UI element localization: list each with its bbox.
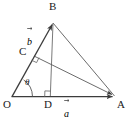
- vector-b-arrow-accent: [27, 26, 32, 31]
- point-label-c: C: [19, 46, 26, 57]
- vector-b-label: b: [27, 26, 32, 49]
- segment-c-a: [34, 56, 112, 95]
- angle-label-theta: θ: [25, 78, 29, 87]
- point-label-a: A: [117, 99, 125, 110]
- right-angle-at-d: [45, 91, 51, 97]
- vector-a-label: a: [64, 98, 69, 117]
- segment-b-a: [53, 23, 115, 96]
- point-label-d: D: [44, 99, 52, 110]
- vector-b-letter: b: [27, 36, 32, 47]
- vector-a-arrow-accent: [64, 98, 69, 103]
- vector-geometry-figure: O B A C D a b θ: [0, 0, 130, 117]
- vector-a-letter: a: [64, 108, 69, 117]
- point-label-b: B: [49, 1, 56, 12]
- point-label-o: O: [3, 99, 11, 110]
- segment-b-d: [50, 23, 53, 97]
